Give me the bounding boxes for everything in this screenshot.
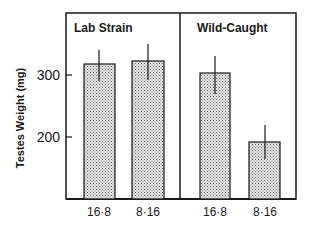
bar-lab-8-16 <box>132 44 164 199</box>
x-label-lab-16-8: 16·8 <box>87 205 111 219</box>
y-tick-label-300: 300 <box>37 67 61 83</box>
bar-lab-16-8 <box>84 50 115 199</box>
panel-label-wild-caught: Wild-Caught <box>197 21 268 35</box>
bar-wild-16-8 <box>200 56 230 199</box>
y-tick-label-200: 200 <box>37 129 61 145</box>
bar-wild-8-16 <box>249 125 280 199</box>
bar-chart: Testes Weight (mg) 300 200 Lab Strain Wi… <box>0 0 310 228</box>
x-label-wild-8-16: 8·16 <box>253 205 277 219</box>
y-axis-title: Testes Weight (mg) <box>14 67 26 168</box>
x-label-wild-16-8: 16·8 <box>203 205 227 219</box>
panel-label-lab-strain: Lab Strain <box>74 21 133 35</box>
x-label-lab-8-16: 8·16 <box>136 205 160 219</box>
